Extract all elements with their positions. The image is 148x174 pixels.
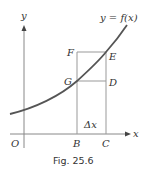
- figure-diagram: y y = f(x) F E G D Δx x O B C Fig. 25.6: [0, 0, 148, 174]
- x-axis-arrow-icon: [125, 132, 131, 137]
- label-D: D: [108, 77, 117, 88]
- label-F: F: [66, 47, 75, 58]
- y-axis-label: y: [20, 10, 27, 21]
- origin-label: O: [11, 138, 19, 149]
- label-E: E: [108, 51, 117, 62]
- label-G: G: [64, 76, 72, 87]
- label-C: C: [102, 138, 110, 149]
- curve-fx: [10, 25, 127, 114]
- x-axis-label: x: [133, 128, 139, 139]
- figure-caption: Fig. 25.6: [53, 155, 94, 166]
- label-B: B: [72, 138, 80, 149]
- y-axis-arrow-icon: [22, 25, 27, 31]
- delta-x-label: Δx: [83, 119, 97, 130]
- curve-label: y = f(x): [99, 12, 138, 23]
